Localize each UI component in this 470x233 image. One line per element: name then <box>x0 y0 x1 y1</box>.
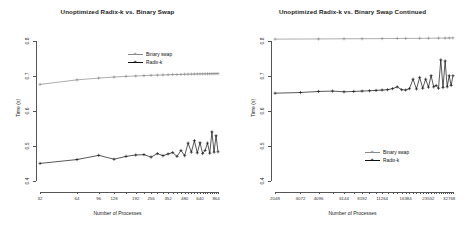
x-tick <box>216 192 217 194</box>
legend-item[interactable]: +Binary swap <box>128 50 172 58</box>
data-point-marker <box>342 37 345 40</box>
data-point-marker <box>424 78 427 81</box>
legend-item[interactable]: +Radix-k <box>128 58 172 66</box>
x-tick <box>126 192 127 194</box>
x-tick <box>447 192 448 194</box>
data-point-marker <box>97 154 100 157</box>
data-point-marker <box>450 84 453 87</box>
x-tick <box>200 192 201 194</box>
data-point-marker <box>381 88 384 91</box>
data-point-marker <box>396 37 399 40</box>
data-point-marker <box>134 153 137 156</box>
legend-label: Binary swap <box>146 52 172 57</box>
x-tick <box>423 192 424 194</box>
data-point-marker <box>198 141 201 144</box>
axis-title-x-left: Number of Processes <box>0 210 235 216</box>
data-point-marker <box>75 78 78 81</box>
x-tick-label: 32 <box>28 196 52 201</box>
x-tick <box>207 192 208 194</box>
legend-item[interactable]: +Radix-k <box>365 156 409 164</box>
data-point-marker <box>391 87 394 90</box>
x-tick <box>210 192 211 194</box>
legend-marker-icon: + <box>365 148 380 156</box>
y-tick-label: 0.7 <box>259 69 265 83</box>
data-point-marker <box>156 152 159 155</box>
x-tick <box>436 192 437 194</box>
data-point-marker <box>112 158 115 161</box>
x-tick-label: 2048 <box>263 196 287 201</box>
x-tick <box>445 192 446 194</box>
x-tick <box>393 192 394 194</box>
data-point-marker <box>444 59 447 62</box>
x-tick <box>376 192 377 194</box>
panel-right: Unoptimized Radix-k vs. Binary Swap Cont… <box>235 0 470 233</box>
data-point-marker <box>112 75 115 78</box>
y-axis-line <box>271 41 272 181</box>
y-tick <box>268 76 271 77</box>
data-point-marker <box>273 92 276 95</box>
x-tick <box>191 192 192 194</box>
x-tick <box>449 192 450 194</box>
x-tick <box>453 192 454 194</box>
data-point-marker <box>142 74 145 77</box>
y-tick <box>33 76 36 77</box>
data-point-marker <box>208 152 211 155</box>
x-tick <box>300 192 301 194</box>
data-point-marker <box>418 37 421 40</box>
data-point-marker <box>411 78 414 81</box>
data-point-marker <box>418 76 421 79</box>
x-tick <box>99 192 100 194</box>
x-tick <box>369 192 370 194</box>
data-point-marker <box>38 83 41 86</box>
data-point-marker <box>299 91 302 94</box>
axis-title-x-right: Number of Processes <box>235 210 470 216</box>
y-tick <box>33 181 36 182</box>
data-point-marker <box>187 73 190 76</box>
x-tick <box>413 192 414 194</box>
figure-two-panel-line-charts: Unoptimized Radix-k vs. Binary Swap 0.40… <box>0 0 470 233</box>
x-tick <box>157 192 158 194</box>
x-tick <box>382 192 383 194</box>
y-tick <box>33 146 36 147</box>
series-line <box>40 132 218 164</box>
data-point-marker <box>97 77 100 80</box>
x-tick <box>354 192 355 194</box>
x-tick <box>168 192 169 194</box>
x-tick <box>344 192 345 194</box>
data-point-marker <box>430 74 433 77</box>
data-point-marker <box>360 89 363 92</box>
data-point-marker <box>342 90 345 93</box>
x-tick <box>40 192 41 194</box>
x-tick <box>397 192 398 194</box>
data-point-marker <box>421 87 424 90</box>
data-point-marker <box>448 36 451 39</box>
data-point-marker <box>166 152 169 155</box>
data-point-marker <box>190 151 193 154</box>
data-point-marker <box>196 151 199 154</box>
data-point-marker <box>404 88 407 91</box>
x-tick <box>114 192 115 194</box>
x-tick <box>409 192 410 194</box>
x-tick <box>426 192 427 194</box>
legend-item[interactable]: +Binary swap <box>365 148 409 156</box>
data-point-marker <box>427 86 430 89</box>
x-tick <box>203 192 204 194</box>
data-point-marker <box>216 150 219 153</box>
data-point-marker <box>386 88 389 91</box>
y-tick-label: 0.8 <box>259 34 265 48</box>
x-tick <box>441 192 442 194</box>
data-point-marker <box>134 74 137 77</box>
x-tick <box>214 192 215 194</box>
y-tick-label: 0.5 <box>24 139 30 153</box>
y-tick <box>33 41 36 42</box>
y-tick <box>268 181 271 182</box>
x-tick <box>388 192 389 194</box>
series-line <box>275 38 453 39</box>
x-tick <box>205 192 206 194</box>
x-tick <box>362 192 363 194</box>
x-tick <box>163 192 164 194</box>
data-point-marker <box>171 73 174 76</box>
data-point-marker <box>437 37 440 40</box>
data-point-marker <box>175 73 178 76</box>
y-tick-label: 0.6 <box>259 104 265 118</box>
